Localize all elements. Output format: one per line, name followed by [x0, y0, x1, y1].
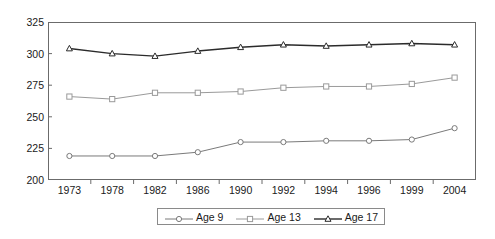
y-axis-tick-label: 275 — [2, 80, 44, 90]
series-age-13 — [67, 75, 457, 102]
data-point-marker — [152, 153, 157, 158]
marker-circle — [409, 137, 414, 142]
chart-legend: Age 9Age 13Age 17 — [157, 208, 385, 225]
marker-square — [152, 90, 157, 95]
y-axis: 200225250275300325 — [0, 0, 44, 239]
legend-entry[interactable]: Age 9 — [164, 211, 223, 223]
x-axis-tick-label: 1994 — [315, 184, 338, 196]
x-axis-tick-label: 1982 — [143, 184, 166, 196]
x-axis-tick-label: 1992 — [272, 184, 295, 196]
series-age-17 — [66, 40, 457, 58]
plot-area — [48, 22, 476, 180]
marker-circle — [110, 153, 115, 158]
data-point-marker — [366, 84, 371, 89]
data-point-marker — [110, 97, 115, 102]
marker-square — [409, 81, 414, 86]
x-axis-tick-label: 1986 — [186, 184, 209, 196]
data-point-marker — [238, 139, 243, 144]
data-point-marker — [409, 81, 414, 86]
marker-square — [452, 75, 457, 80]
series-line — [69, 128, 454, 156]
data-point-marker — [110, 153, 115, 158]
x-axis-tick-label: 1973 — [58, 184, 81, 196]
marker-square — [366, 84, 371, 89]
x-axis: 1973197819821986199019921994199619992004 — [48, 184, 476, 200]
marker-circle — [281, 139, 286, 144]
series-line — [69, 78, 454, 99]
data-point-marker — [248, 216, 253, 221]
x-axis-tick-label: 2004 — [443, 184, 466, 196]
marker-circle — [366, 138, 371, 143]
legend-label: Age 17 — [345, 211, 378, 223]
y-axis-tick-label: 300 — [2, 49, 44, 59]
legend-label: Age 13 — [267, 211, 300, 223]
line-chart: 200225250275300325 197319781982198619901… — [0, 0, 495, 239]
marker-circle — [152, 153, 157, 158]
data-point-marker — [152, 90, 157, 95]
data-point-marker — [281, 85, 286, 90]
data-point-marker — [281, 139, 286, 144]
series-age-9 — [67, 126, 457, 159]
series-line — [69, 43, 454, 56]
data-point-marker — [452, 75, 457, 80]
marker-circle — [195, 150, 200, 155]
data-point-marker — [67, 153, 72, 158]
marker-circle — [67, 153, 72, 158]
legend-label: Age 9 — [196, 211, 223, 223]
data-point-marker — [176, 216, 181, 221]
marker-circle — [238, 139, 243, 144]
marker-square — [67, 94, 72, 99]
marker-square — [324, 84, 329, 89]
marker-square — [248, 216, 253, 221]
marker-circle — [452, 126, 457, 131]
x-axis-tick-label: 1999 — [400, 184, 423, 196]
data-point-marker — [238, 89, 243, 94]
y-axis-tick-label: 200 — [2, 175, 44, 185]
x-axis-tick-label: 1996 — [357, 184, 380, 196]
data-point-marker — [67, 94, 72, 99]
legend-entry[interactable]: Age 13 — [235, 211, 300, 223]
data-point-marker — [195, 90, 200, 95]
legend-entry[interactable]: Age 17 — [313, 211, 378, 223]
marker-circle — [324, 138, 329, 143]
y-axis-tick-label: 225 — [2, 143, 44, 153]
x-axis-tick-label: 1978 — [101, 184, 124, 196]
data-point-marker — [366, 138, 371, 143]
y-axis-tick-label: 250 — [2, 112, 44, 122]
legend-marker-triangle-icon — [313, 211, 343, 223]
y-axis-tick-label: 325 — [2, 17, 44, 27]
legend-marker-circle-icon — [164, 211, 194, 223]
data-point-marker — [409, 137, 414, 142]
marker-square — [238, 89, 243, 94]
data-point-marker — [324, 138, 329, 143]
data-point-marker — [324, 84, 329, 89]
data-point-marker — [195, 150, 200, 155]
marker-square — [281, 85, 286, 90]
marker-square — [195, 90, 200, 95]
legend-marker-square-icon — [235, 211, 265, 223]
x-axis-tick-label: 1990 — [229, 184, 252, 196]
data-point-marker — [452, 126, 457, 131]
marker-circle — [176, 216, 181, 221]
marker-square — [110, 97, 115, 102]
